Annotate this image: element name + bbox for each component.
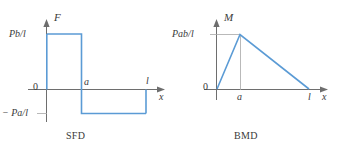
bmd-origin-label: 0 [203, 82, 208, 92]
sfd-y-axis-arrowhead [43, 19, 49, 27]
sfd-shear-curve [47, 34, 146, 114]
sfd-x-tick-a-label: a [84, 77, 89, 87]
bmd-y-axis-label: M [224, 12, 233, 23]
bmd-y-axis-arrowhead [213, 19, 219, 27]
bmd-caption: BMD [234, 131, 258, 141]
bmd-x-tick-l-label: l [308, 92, 311, 102]
bmd-x-tick-a-label: a [237, 92, 242, 102]
sfd-origin-label: 0 [33, 82, 38, 92]
sfd-y-axis-label: F [54, 12, 61, 23]
sfd-panel: Pb/l − Pa/l 0 F x a l SFD [0, 0, 170, 153]
sfd-y-top-label: Pb/l [9, 29, 26, 39]
bmd-panel: Pab/l 0 M x a l BMD [170, 0, 341, 153]
sfd-x-axis-label: x [159, 92, 163, 102]
bmd-x-axis-label: x [322, 92, 326, 102]
bmd-moment-curve [217, 35, 309, 90]
sfd-x-tick-l-label: l [146, 76, 149, 86]
beam-diagrams-figure: Pb/l − Pa/l 0 F x a l SFD Pab/l 0 M x [0, 0, 341, 153]
sfd-y-bottom-label: − Pa/l [2, 108, 28, 118]
sfd-caption: SFD [66, 131, 85, 141]
bmd-y-peak-label: Pab/l [172, 29, 194, 39]
